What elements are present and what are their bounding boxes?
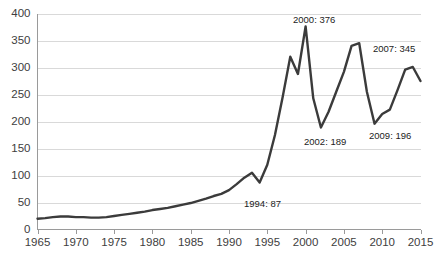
y-axis-label-400: 400 — [11, 7, 30, 19]
y-axis-label-0: 0 — [24, 223, 30, 235]
x-axis-label-1990: 1990 — [216, 236, 242, 248]
x-axis-label-1970: 1970 — [63, 236, 89, 248]
x-axis-tick-labels: 1965197019751980198519901995200020052010… — [25, 236, 434, 248]
y-axis-label-50: 50 — [18, 196, 31, 208]
x-axis-label-1975: 1975 — [101, 236, 127, 248]
chart-canvas: 050100150200250300350400 196519701975198… — [0, 0, 440, 264]
annotation-2007: 2007: 345 — [373, 43, 415, 54]
x-axis-label-2010: 2010 — [369, 236, 395, 248]
y-axis-label-100: 100 — [11, 169, 30, 181]
chart-axes — [38, 14, 422, 234]
y-axis-label-150: 150 — [11, 142, 30, 154]
x-axis-label-1980: 1980 — [140, 236, 166, 248]
x-axis-label-2005: 2005 — [331, 236, 357, 248]
x-axis-label-2015: 2015 — [408, 236, 434, 248]
line-chart: 050100150200250300350400 196519701975198… — [0, 0, 440, 264]
gridlines — [38, 15, 421, 204]
x-axis-label-1965: 1965 — [25, 236, 51, 248]
y-axis-label-300: 300 — [11, 61, 30, 73]
x-axis-label-1995: 1995 — [255, 236, 281, 248]
annotation-2002: 2002: 189 — [304, 136, 346, 147]
annotation-1994: 1994: 87 — [244, 198, 281, 209]
x-axis-label-1985: 1985 — [178, 236, 204, 248]
annotation-2000: 2000: 376 — [293, 14, 335, 25]
annotation-2009: 2009: 196 — [369, 130, 411, 141]
x-axis-label-2000: 2000 — [293, 236, 319, 248]
y-axis-tick-labels: 050100150200250300350400 — [11, 7, 30, 235]
y-axis-label-250: 250 — [11, 88, 30, 100]
y-axis-label-200: 200 — [11, 115, 30, 127]
y-axis-label-350: 350 — [11, 34, 30, 46]
